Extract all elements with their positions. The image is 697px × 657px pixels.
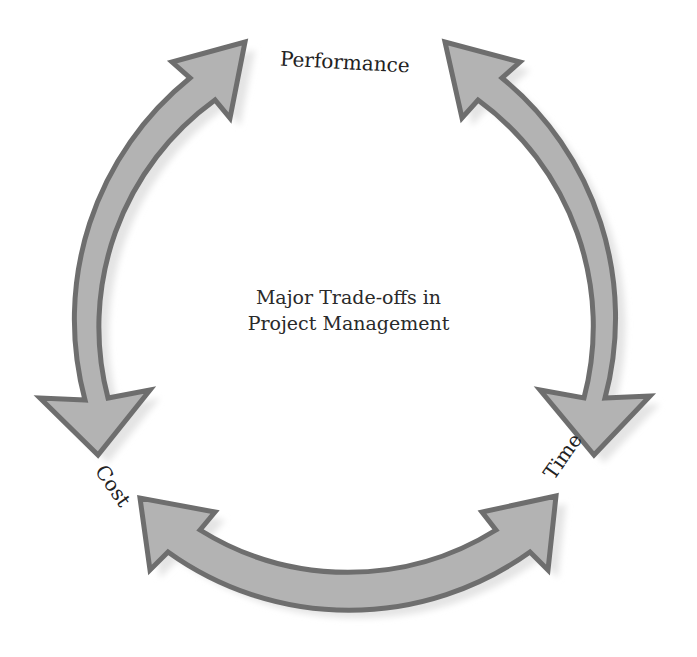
diagram-title-line-2: Project Management [0,310,697,336]
diagram-title-line-1: Major Trade-offs in [0,284,697,310]
diagram-title: Major Trade-offs in Project Management [0,284,697,336]
right-double-arrow [445,42,650,455]
bottom-double-arrow [140,496,556,610]
